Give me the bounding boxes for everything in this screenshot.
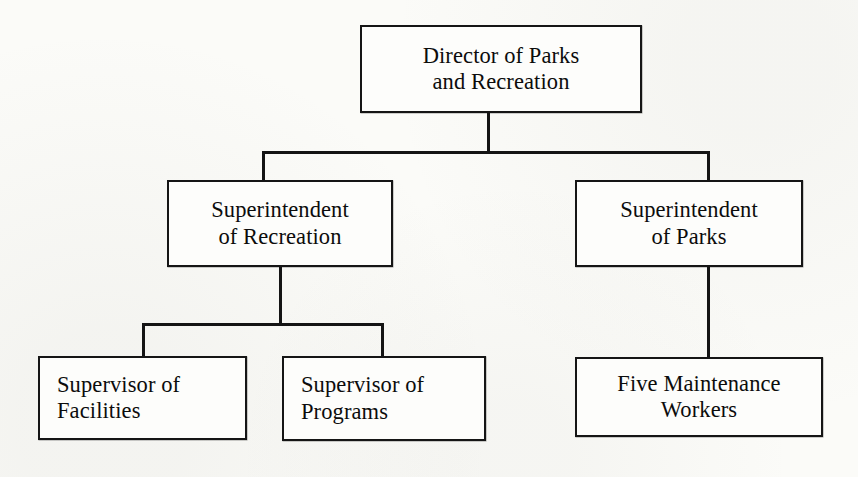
connector-to-supt-parks: [707, 151, 710, 182]
node-superintendent-recreation-label: Superintendent of Recreation: [169, 197, 391, 249]
connector-level1-bus: [262, 151, 710, 154]
node-superintendent-parks: Superintendent of Parks: [575, 180, 803, 267]
node-superintendent-parks-label: Superintendent of Parks: [577, 197, 801, 249]
connector-level2-bus: [142, 323, 384, 326]
node-five-maintenance-workers-label: Five Maintenance Workers: [577, 371, 821, 423]
node-supervisor-facilities: Supervisor of Facilities: [38, 356, 247, 440]
node-supervisor-programs-label: Supervisor of Programs: [284, 372, 484, 424]
connector-director-drop: [487, 111, 490, 154]
node-director-label: Director of Parks and Recreation: [362, 43, 640, 95]
connector-to-supervisor-facilities: [142, 323, 145, 358]
connector-to-supt-recreation: [262, 151, 265, 182]
connector-parks-to-maintenance: [707, 265, 710, 358]
node-director: Director of Parks and Recreation: [360, 25, 642, 113]
node-superintendent-recreation: Superintendent of Recreation: [167, 180, 393, 267]
node-supervisor-programs: Supervisor of Programs: [282, 356, 486, 441]
connector-to-supervisor-programs: [381, 323, 384, 358]
org-chart: Director of Parks and Recreation Superin…: [0, 0, 858, 477]
connector-recreation-drop: [279, 265, 282, 326]
node-five-maintenance-workers: Five Maintenance Workers: [575, 357, 823, 437]
node-supervisor-facilities-label: Supervisor of Facilities: [40, 372, 245, 424]
